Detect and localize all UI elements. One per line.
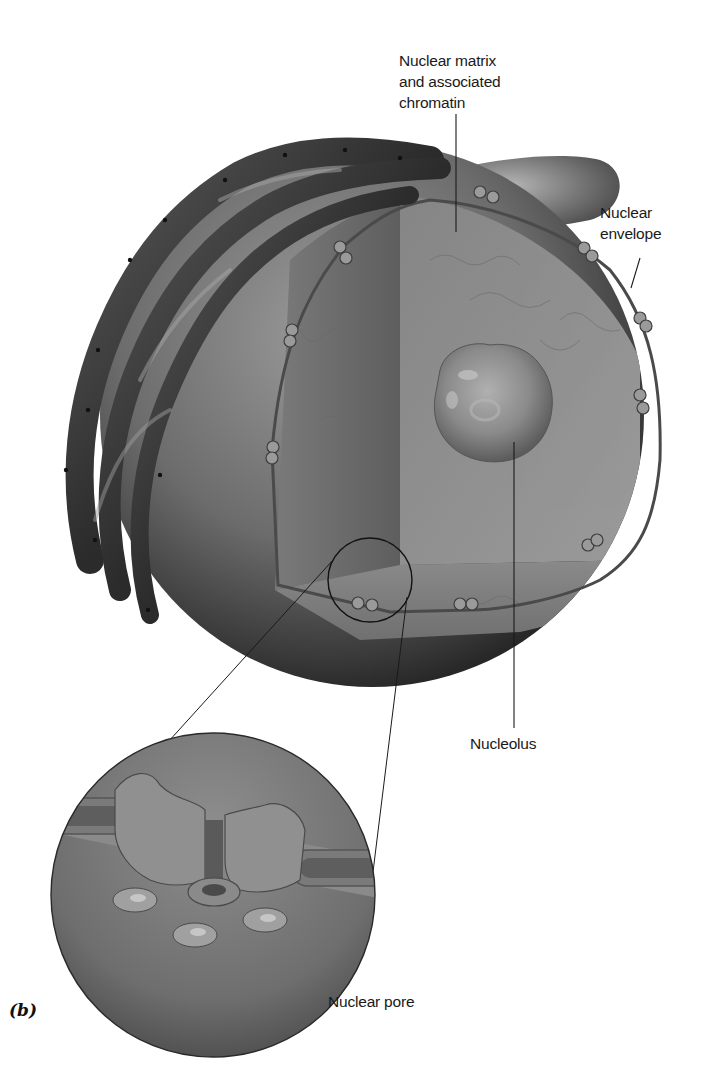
label-nucleolus: Nucleolus [470,733,536,754]
label-nuclear-matrix: Nuclear matrix and associated chromatin [399,50,500,113]
nucleolus [434,344,552,462]
leader-nuclear-envelope [631,258,640,288]
label-nuclear-pore: Nuclear pore [328,991,414,1012]
panel-label: (b) [9,1000,37,1020]
nucleus-diagram [0,0,726,1074]
label-nuclear-envelope: Nuclear envelope [600,202,661,244]
